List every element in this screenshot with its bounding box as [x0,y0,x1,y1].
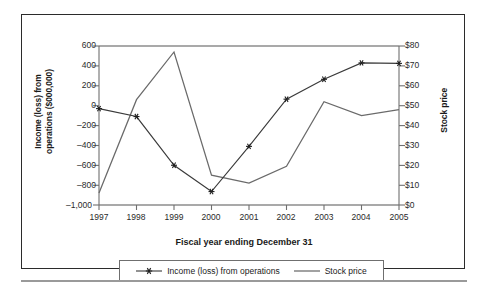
x-tick-2001: 2001 [229,212,269,222]
y-axis-left-title: Income (loss) from operations ($000,000) [33,37,54,187]
page-divider-rule [21,280,467,282]
legend-item-income[interactable]: Income (loss) from operations [136,266,279,276]
x-tick-2002: 2002 [266,212,306,222]
legend-label-stock-price: Stock price [325,266,367,276]
y-tick-right-70: $70 [405,60,447,70]
y-tick-left-400: 400 [54,60,96,70]
y-tick-left-0: 0 [54,100,96,110]
x-axis-title: Fiscal year ending December 31 [22,237,466,247]
y-tick-right-10: $10 [405,180,447,190]
chart-figure-frame: Income (loss) from operations ($000,000)… [21,14,465,269]
y-tick-left-n400: –400 [54,140,96,150]
x-tick-2000: 2000 [191,212,231,222]
y-tick-right-40: $40 [405,120,447,130]
plain-line-marker-icon [294,266,320,276]
y-tick-left-n600: –600 [54,160,96,170]
x-tick-1999: 1999 [154,212,194,222]
x-tick-1997: 1997 [79,212,119,222]
x-tick-2004: 2004 [341,212,381,222]
y-tick-right-0: $0 [405,200,447,210]
asterisk-line-marker-icon [136,266,162,276]
legend-label-income: Income (loss) from operations [167,266,279,276]
y-tick-right-50: $50 [405,100,447,110]
series-markers-income [96,60,402,194]
series-line-income [99,63,399,192]
x-tick-2005: 2005 [379,212,419,222]
y-tick-right-80: $80 [405,40,447,50]
series-line-stock-price [99,52,399,193]
y-tick-left-200: 200 [54,80,96,90]
y-tick-left-n1000: –1,000 [50,200,92,210]
y-tick-right-60: $60 [405,80,447,90]
x-tick-1998: 1998 [116,212,156,222]
plot-area: Income (loss) from operations ($000,000)… [22,15,466,225]
legend-item-stock-price[interactable]: Stock price [294,266,367,276]
y-tick-left-n200: –200 [54,120,96,130]
chart-legend: Income (loss) from operations Stock pric… [119,260,384,282]
x-tick-2003: 2003 [304,212,344,222]
y-tick-left-600: 600 [54,40,96,50]
y-tick-right-30: $30 [405,140,447,150]
y-tick-right-20: $20 [405,160,447,170]
y-tick-left-n800: –800 [54,180,96,190]
